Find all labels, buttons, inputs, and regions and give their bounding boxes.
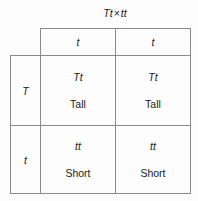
phenotype-label: Short — [65, 167, 90, 180]
row-header-2: t — [11, 126, 40, 193]
column-header-2: t — [116, 28, 190, 55]
genotype-label: Tt — [148, 71, 157, 84]
genotype-label: tt — [75, 140, 81, 153]
punnett-cell-row2-col2: tt Short — [116, 126, 190, 193]
phenotype-label: Tall — [70, 98, 86, 111]
punnett-cell-row1-col2: Tt Tall — [116, 56, 190, 125]
grid-line-right — [190, 28, 191, 194]
row-header-1: T — [11, 56, 40, 125]
genotype-label: Tt — [73, 71, 82, 84]
cross-title: Tt×tt — [40, 7, 190, 20]
punnett-cell-row2-col1: tt Short — [41, 126, 115, 193]
column-header-1: t — [41, 28, 115, 55]
cross-title-parent-1: Tt — [103, 7, 112, 19]
cross-title-operator: × — [113, 7, 121, 19]
grid-line-bottom — [10, 193, 190, 194]
cross-title-parent-2: tt — [121, 7, 127, 19]
phenotype-label: Short — [140, 167, 165, 180]
punnett-cell-row1-col1: Tt Tall — [41, 56, 115, 125]
punnett-square-figure: Tt×tt t t T t Tt Tall Tt Tall tt Short t… — [0, 0, 198, 201]
genotype-label: tt — [150, 140, 156, 153]
phenotype-label: Tall — [145, 98, 161, 111]
